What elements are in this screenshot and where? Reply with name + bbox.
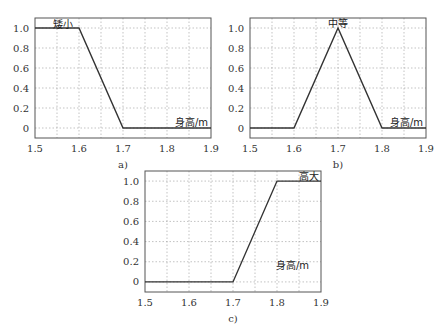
x-tick-label: 1.6 — [181, 297, 197, 308]
chart-c: 00.20.40.60.81.01.51.61.71.81.9高大身高/mc) — [123, 170, 329, 324]
chart-caption: c) — [228, 313, 238, 324]
x-tick-label: 1.8 — [374, 143, 390, 154]
y-tick-label: 0.8 — [123, 196, 139, 207]
y-tick-label: 0 — [238, 123, 244, 134]
figure: 00.20.40.60.81.01.51.61.71.81.9矮小身高/ma)0… — [0, 0, 448, 334]
y-tick-label: 1.0 — [228, 23, 244, 34]
x-axis-label: 身高/m — [175, 116, 208, 128]
series-name-label: 中等 — [328, 17, 348, 29]
x-tick-label: 1.9 — [418, 143, 434, 154]
x-tick-label: 1.8 — [159, 143, 175, 154]
y-tick-label: 0 — [23, 123, 29, 134]
x-tick-label: 1.7 — [330, 143, 346, 154]
series-name-label: 高大 — [299, 170, 319, 182]
x-tick-label: 1.6 — [286, 143, 302, 154]
y-tick-label: 0.8 — [228, 43, 244, 54]
y-tick-label: 0 — [133, 276, 139, 287]
chart-b: 00.20.40.60.81.01.51.61.71.81.9中等身高/mb) — [228, 17, 434, 170]
chart-a: 00.20.40.60.81.01.51.61.71.81.9矮小身高/ma) — [13, 18, 219, 170]
grid-lines — [145, 171, 321, 292]
x-axis-label: 身高/m — [390, 116, 423, 128]
y-tick-label: 0.2 — [228, 103, 244, 114]
x-tick-label: 1.7 — [115, 143, 131, 154]
y-tick-label: 0.6 — [13, 63, 29, 74]
x-tick-label: 1.7 — [225, 297, 241, 308]
x-tick-label: 1.8 — [269, 297, 285, 308]
x-axis-label: 身高/m — [276, 259, 309, 271]
x-tick-label: 1.5 — [242, 143, 258, 154]
y-tick-label: 0.4 — [123, 236, 139, 247]
y-tick-label: 0.4 — [13, 83, 29, 94]
x-tick-label: 1.9 — [313, 297, 329, 308]
y-tick-label: 1.0 — [13, 23, 29, 34]
chart-caption: a) — [118, 159, 128, 170]
x-tick-label: 1.6 — [71, 143, 87, 154]
y-tick-label: 0.4 — [228, 83, 244, 94]
chart-caption: b) — [333, 159, 343, 170]
x-tick-label: 1.5 — [27, 143, 43, 154]
series-name-label: 矮小 — [53, 19, 73, 30]
y-tick-label: 0.6 — [123, 216, 139, 227]
y-tick-label: 0.6 — [228, 63, 244, 74]
y-tick-label: 0.2 — [123, 256, 139, 267]
y-tick-label: 1.0 — [123, 176, 139, 187]
y-tick-label: 0.2 — [13, 103, 29, 114]
y-tick-label: 0.8 — [13, 43, 29, 54]
x-tick-label: 1.9 — [203, 143, 219, 154]
x-tick-label: 1.5 — [137, 297, 153, 308]
